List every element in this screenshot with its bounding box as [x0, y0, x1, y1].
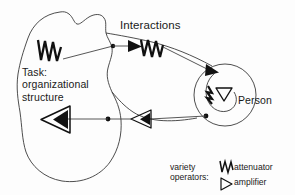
attenuator-in-task: [38, 40, 61, 61]
attenuator-in-interactions: [141, 40, 163, 57]
person-to-interactions-return-line: [150, 116, 206, 119]
diagram-canvas: Interactions Task: organizational struct…: [0, 0, 295, 195]
label-interactions: Interactions: [120, 19, 181, 33]
task-to-interactions-line: [63, 46, 113, 59]
interactions-to-person-line: [163, 47, 213, 72]
interactions-lens-lower-edge: [112, 92, 197, 121]
legend-title: variety operators:: [170, 162, 209, 182]
amplifier-in-person: [216, 88, 232, 101]
label-task-organizational-structure: Task: organizational structure: [22, 66, 89, 103]
legend-attenuator-label: attenuator: [234, 162, 273, 172]
open-triangle-amplifier-icon: [221, 178, 232, 190]
label-person: Person: [238, 94, 272, 106]
legend-amplifier-label: amplifier: [234, 177, 266, 187]
zigzag-attenuator-icon: [220, 161, 233, 173]
arrowhead-into-interactions: [128, 40, 142, 52]
